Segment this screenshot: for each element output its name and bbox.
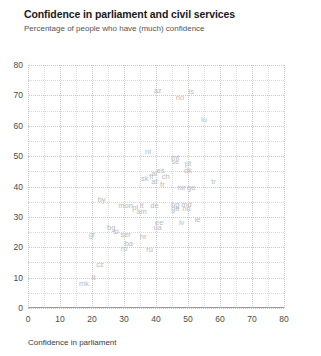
x-tick-label: 70	[247, 314, 256, 324]
data-point-label: fr	[160, 181, 165, 189]
y-tick-label: 50	[14, 151, 23, 161]
chart-subtitle: Percentage of people who have (much) con…	[24, 24, 205, 33]
data-point-label: de	[150, 202, 158, 210]
data-point-label: tr	[211, 178, 216, 186]
data-point-label: gr	[89, 231, 96, 239]
gridline-vertical	[44, 65, 45, 308]
gridline-vertical	[268, 65, 269, 308]
gridline-vertical	[172, 65, 173, 308]
x-axis-label: Confidence in parliament	[28, 338, 117, 347]
gridline-vertical	[236, 65, 237, 308]
data-point-label: by	[98, 196, 106, 204]
data-point-label: ie	[195, 216, 201, 224]
gridline-vertical	[92, 65, 93, 308]
data-point-label: az	[154, 87, 162, 95]
data-point-label: mon	[118, 202, 133, 210]
data-point-label: gb	[171, 206, 179, 214]
x-tick-label: 0	[26, 314, 31, 324]
x-tick-label: 50	[183, 314, 192, 324]
data-point-label: se	[171, 158, 179, 166]
gridline-vertical	[28, 65, 29, 308]
y-tick-label: 30	[14, 212, 23, 222]
data-point-label: sk	[141, 175, 149, 183]
data-point-label: is	[188, 89, 193, 97]
x-tick-label: 60	[215, 314, 224, 324]
data-point-label: cz	[96, 262, 104, 270]
y-tick-label: 80	[14, 60, 23, 70]
gridline-vertical	[108, 65, 109, 308]
data-point-label: no	[176, 95, 184, 103]
x-tick-label: 40	[151, 314, 160, 324]
data-point-label: ru	[146, 247, 153, 255]
gridline-vertical	[76, 65, 77, 308]
data-point-label: si	[113, 228, 118, 236]
gridline-horizontal	[28, 308, 284, 309]
gridline-vertical	[124, 65, 125, 308]
gridline-vertical	[60, 65, 61, 308]
y-tick-label: 70	[14, 90, 23, 100]
y-tick-label: 0	[18, 303, 23, 313]
data-point-label: lv	[179, 219, 184, 227]
scatter-chart: Confidence in parliament and civil servi…	[0, 0, 321, 356]
x-tick-label: 10	[55, 314, 64, 324]
data-point-label: at	[151, 178, 157, 186]
gridline-vertical	[204, 65, 205, 308]
x-tick-label: 80	[279, 314, 288, 324]
x-tick-label: 30	[119, 314, 128, 324]
plot-area: 01020304050607080 01020304050607080 azis…	[28, 65, 284, 308]
gridline-vertical	[284, 65, 285, 308]
data-point-label: ge	[187, 184, 195, 192]
y-tick-label: 10	[14, 273, 23, 283]
data-point-label: ser	[120, 231, 130, 239]
x-axis-line	[28, 307, 284, 308]
gridline-vertical	[252, 65, 253, 308]
y-tick-label: 40	[14, 182, 23, 192]
data-point-label: lu	[201, 116, 207, 124]
data-point-label: dk	[184, 168, 192, 176]
gridline-vertical	[140, 65, 141, 308]
data-point-label: am	[136, 209, 146, 217]
data-point-label: nl	[145, 148, 151, 156]
data-point-label: hu	[182, 206, 190, 214]
y-tick-label: 60	[14, 121, 23, 131]
y-tick-label: 20	[14, 242, 23, 252]
gridline-vertical	[220, 65, 221, 308]
gridline-vertical	[156, 65, 157, 308]
x-tick-label: 20	[87, 314, 96, 324]
data-point-label: hr	[140, 233, 147, 241]
data-point-label: ua	[153, 224, 161, 232]
chart-title: Confidence in parliament and civil servi…	[24, 8, 235, 20]
data-point-label: lt	[92, 274, 96, 282]
data-point-label: nir	[177, 184, 185, 192]
data-point-label: mk	[79, 280, 89, 288]
data-point-label: ro	[121, 245, 128, 253]
